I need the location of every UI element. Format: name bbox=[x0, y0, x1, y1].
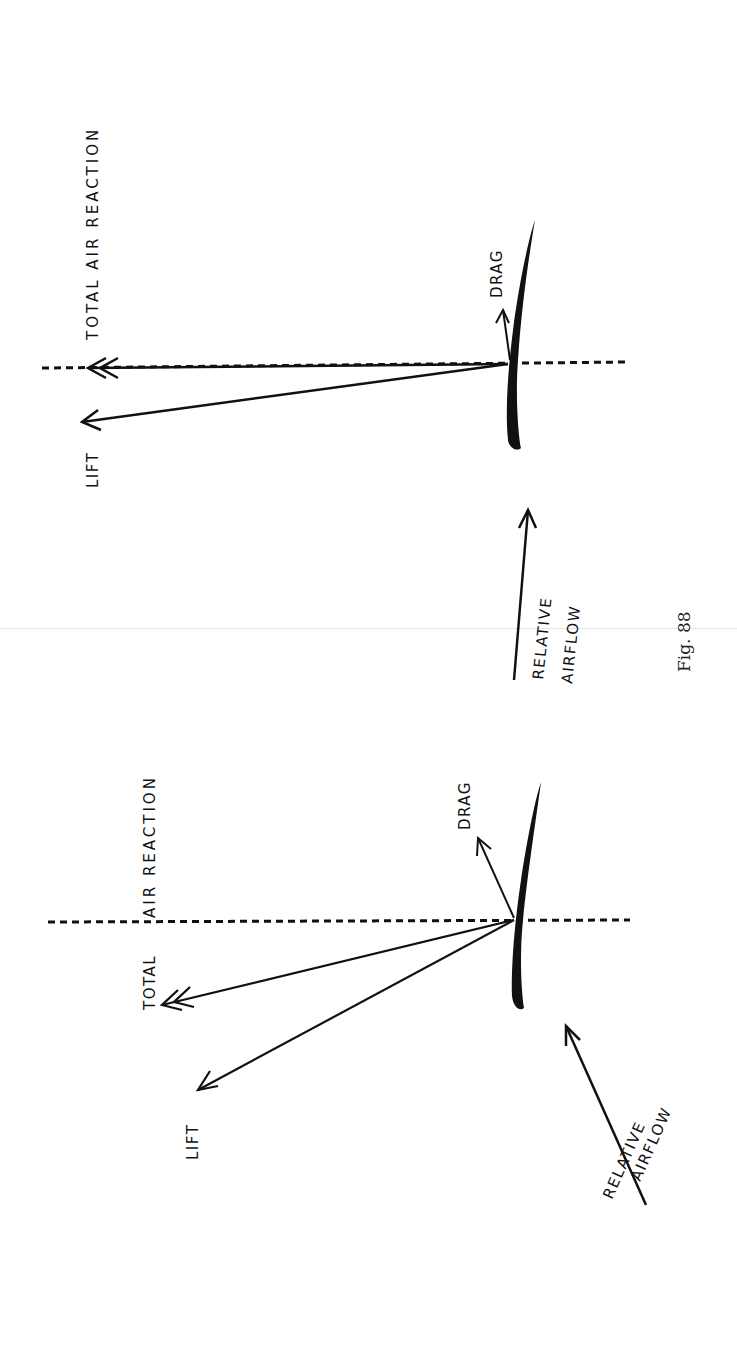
upper-total-air-reaction-label: TOTAL AIR REACTION bbox=[84, 127, 102, 341]
figure-caption: Fig. 88 bbox=[674, 611, 694, 672]
lower-drag-label: DRAG bbox=[456, 781, 474, 830]
lower-reference-line bbox=[48, 920, 630, 922]
lower-diagram: TOTAL AIR REACTION LIFT DRAG RELATIVE AI… bbox=[48, 775, 676, 1205]
upper-aerofoil-icon bbox=[507, 220, 535, 450]
upper-relative-label: RELATIVE bbox=[529, 596, 556, 680]
upper-drag-label: DRAG bbox=[488, 249, 506, 298]
lower-total-label: TOTAL bbox=[141, 955, 159, 1011]
upper-airflow-label: AIRFLOW bbox=[558, 604, 584, 684]
lower-lift-label: LIFT bbox=[184, 1124, 202, 1160]
upper-diagram: TOTAL AIR REACTION LIFT DRAG RELATIVE AI… bbox=[42, 127, 628, 685]
figure-canvas: TOTAL AIR REACTION LIFT DRAG RELATIVE AI… bbox=[0, 0, 737, 1358]
lower-aerofoil-icon bbox=[512, 782, 541, 1009]
lower-air-reaction-label: AIR REACTION bbox=[141, 775, 159, 918]
upper-lift-label: LIFT bbox=[84, 452, 102, 488]
